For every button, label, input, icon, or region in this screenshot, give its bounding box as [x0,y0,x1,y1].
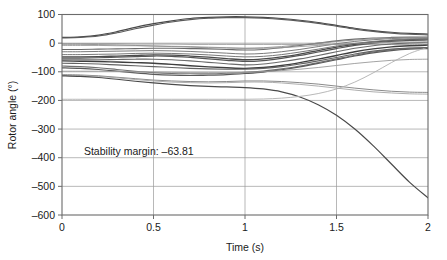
y-tick-label: –200 [32,94,56,106]
y-tick-label: –500 [32,180,56,192]
y-tick-label: –600 [32,209,56,221]
x-axis-title: Time (s) [226,241,264,253]
chart-annotations: Stability margin: –63.81 [84,145,194,157]
y-tick-label: 100 [37,8,55,20]
x-tick-label: 0 [59,221,65,233]
y-tick-label: –400 [32,151,56,163]
y-tick-label: –100 [32,65,56,77]
x-tick-label: 1 [242,221,248,233]
stability-margin-annotation: Stability margin: –63.81 [84,145,194,157]
x-tick-label: 0.5 [146,221,161,233]
y-tick-label: 0 [49,37,55,49]
x-tick-label: 2 [425,221,431,233]
y-tick-label: –300 [32,123,56,135]
y-axis-title: Rotor angle (°) [6,81,18,149]
rotor-angle-chart: 00.511.52 1000–100–200–300–400–500–600 T… [0,0,447,260]
x-tick-label: 1.5 [329,221,344,233]
